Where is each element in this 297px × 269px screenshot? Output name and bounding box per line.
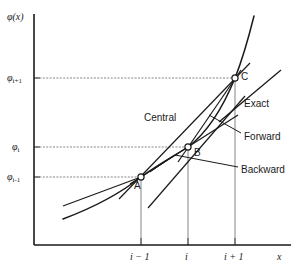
y-tick-label-phi-i: φi (12, 142, 20, 154)
point-label-a: A (134, 181, 141, 191)
point-marker-b (185, 144, 191, 150)
x-tick-label-i-minus-1: i − 1 (130, 252, 150, 262)
finite-difference-diagram: φ(x) φi+1 φi φi-1 i − 1 i i + 1 x A B C … (0, 0, 297, 269)
x-axis-label: x (277, 252, 281, 262)
x-tick-label-i: i (185, 252, 188, 262)
y-tick-label-phi-i-minus-1: φi-1 (7, 172, 20, 184)
x-tick-label-i-plus-1: i + 1 (224, 252, 244, 262)
horizontal-guide-lines (36, 78, 234, 177)
leader-lines-group (150, 115, 241, 172)
point-marker-c (232, 75, 238, 81)
phi-subscript: i (18, 146, 20, 154)
phi-subscript: i-1 (13, 176, 21, 184)
y-tick-marks (34, 78, 40, 177)
point-label-c: C (241, 72, 248, 82)
y-axis-label: φ(x) (7, 12, 24, 22)
axes-group (34, 14, 291, 245)
point-label-b: B (194, 148, 201, 158)
annotation-exact: Exact (244, 99, 269, 109)
y-tick-label-phi-i-plus-1: φi+1 (7, 73, 22, 85)
annotation-forward: Forward (244, 132, 281, 142)
phi-subscript: i+1 (13, 77, 22, 85)
y-axis-label-text: φ(x) (7, 11, 24, 22)
annotation-central: Central (144, 113, 176, 123)
backward-difference-line (130, 115, 238, 184)
annotation-backward: Backward (241, 165, 285, 175)
